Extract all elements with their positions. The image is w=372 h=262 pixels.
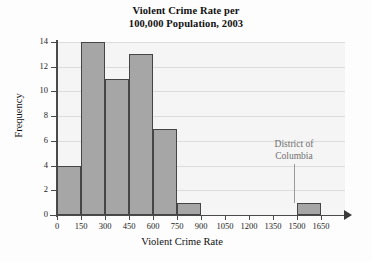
x-axis-tick [81,215,82,220]
x-axis-tick [273,215,274,220]
y-axis-tick [51,91,57,92]
histogram-bar [81,42,105,215]
histogram-bar [153,129,177,216]
annotation-leader-line [294,164,295,203]
y-axis-tick-label: 8 [22,110,48,120]
histogram-bar [129,54,153,215]
histogram-bar [57,166,81,215]
y-axis-tick [51,42,57,43]
annotation-district-of-columbia: District of Columbia [252,139,336,162]
y-axis-tick [51,116,57,117]
annotation-line-2: Columbia [252,151,336,163]
x-axis-title: Violent Crime Rate [57,236,307,247]
y-axis-tick-label: 10 [22,85,48,95]
x-axis-tick [225,215,226,220]
histogram-bar [297,203,321,215]
x-axis-tick [153,215,154,220]
y-axis-tick-label: 14 [22,36,48,46]
x-axis-tick [297,215,298,220]
x-axis-tick [57,215,58,220]
x-axis-tick [129,215,130,220]
y-axis-tick-label: 2 [22,184,48,194]
y-axis-tick-label: 4 [22,160,48,170]
y-axis-tick [51,67,57,68]
y-axis-title: Frequency [13,81,24,151]
histogram-bar [177,203,201,215]
x-axis-tick [177,215,178,220]
y-axis-tick-label: 0 [22,209,48,219]
chart-title-line-2: 100,000 Population, 2003 [0,17,372,30]
y-axis-tick-label: 6 [22,135,48,145]
x-axis-tick-label: 1650 [301,221,341,231]
x-axis-tick [105,215,106,220]
y-axis-tick [51,141,57,142]
annotation-line-1: District of [252,139,336,151]
chart-title-line-1: Violent Crime Rate per [0,4,372,17]
x-axis-tick [321,215,322,220]
y-axis-tick-label: 12 [22,61,48,71]
x-axis-tick [201,215,202,220]
x-axis-arrow-icon [344,210,352,220]
histogram-bar [105,79,129,215]
violent-crime-rate-histogram: Violent Crime Rate per 100,000 Populatio… [0,0,372,262]
x-axis-tick [249,215,250,220]
chart-title: Violent Crime Rate per 100,000 Populatio… [0,4,372,30]
